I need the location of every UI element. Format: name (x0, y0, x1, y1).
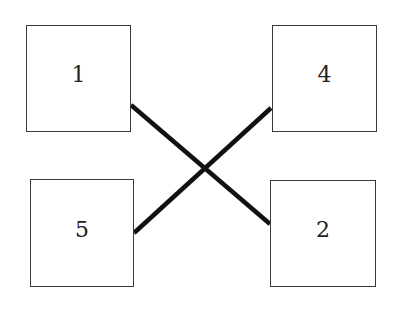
node-2: 2 (270, 180, 376, 287)
node-1: 1 (26, 25, 131, 132)
node-5: 5 (30, 179, 134, 287)
edge-1-to-2 (131, 105, 270, 224)
node-label: 4 (318, 62, 332, 87)
node-label: 1 (72, 62, 86, 87)
node-4: 4 (272, 25, 377, 132)
node-label: 2 (316, 217, 330, 242)
node-label: 5 (75, 217, 89, 242)
